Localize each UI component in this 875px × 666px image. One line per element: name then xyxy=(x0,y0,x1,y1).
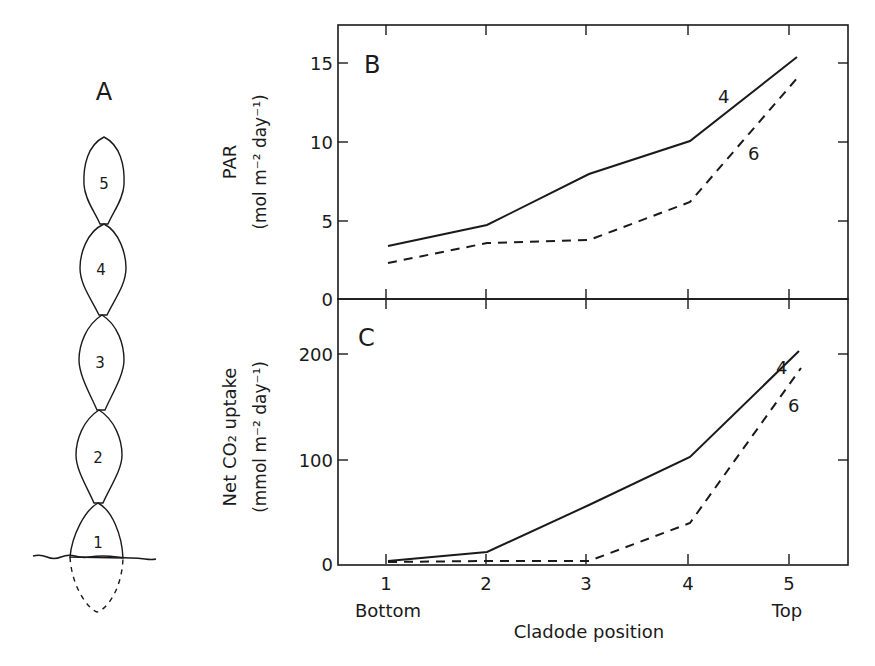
panel-b-ylabel-line2: (mol m⁻² day⁻¹) xyxy=(250,94,270,229)
panel-c-ytick-200: 200 xyxy=(299,344,333,365)
panel-b-series-label-6: 6 xyxy=(748,143,759,164)
cladode-label-4: 4 xyxy=(96,261,106,279)
xtick-2: 2 xyxy=(480,573,491,594)
panel-b-ytick-5: 5 xyxy=(322,211,333,232)
panel-c-series-label-4: 4 xyxy=(776,357,787,378)
panel-c-ytick-100: 100 xyxy=(299,450,333,471)
panel-b-frame xyxy=(338,25,848,299)
panel-c-ylabel-line1: Net CO₂ uptake xyxy=(219,368,240,507)
panel-b-yticks xyxy=(338,63,848,221)
xtick-1: 1 xyxy=(380,573,391,594)
panel-b-series-label-4: 4 xyxy=(718,86,729,107)
panel-b-series-4 xyxy=(388,57,797,246)
panel-c-ytick-0: 0 xyxy=(322,554,333,575)
buried-cladode xyxy=(70,557,123,612)
panel-c-series-6 xyxy=(388,368,801,562)
xaxis-title: Cladode position xyxy=(514,621,665,642)
panel-b-label: B xyxy=(364,51,380,79)
xtick-4: 4 xyxy=(682,573,693,594)
panel-c-series-label-6: 6 xyxy=(788,395,799,416)
cladode-label-3: 3 xyxy=(95,354,105,372)
x-axis: 1 2 3 4 5 Bottom Top Cladode position xyxy=(355,573,802,642)
panel-a-label: A xyxy=(96,78,113,106)
panel-b-ylabel-line1: PAR xyxy=(219,145,240,180)
figure: A 5 4 3 2 1 xyxy=(0,0,875,666)
panel-c-frame xyxy=(338,299,848,565)
xtick-5: 5 xyxy=(783,573,794,594)
cladode-label-1: 1 xyxy=(93,534,103,552)
panel-b-ytick-15: 15 xyxy=(310,53,333,74)
xtick-3: 3 xyxy=(580,573,591,594)
xaxis-bottom-label: Bottom xyxy=(355,600,421,621)
panel-b: 0 5 10 15 B PAR (mol m⁻² day⁻¹) 4 6 xyxy=(219,25,848,310)
cladode-label-2: 2 xyxy=(93,449,103,467)
panel-a: A xyxy=(33,78,156,612)
panel-c-xticks xyxy=(386,299,789,564)
panel-b-ytick-0: 0 xyxy=(322,289,333,310)
cladode-label-5: 5 xyxy=(99,175,109,193)
panel-c-label: C xyxy=(358,324,375,352)
panel-b-ytick-10: 10 xyxy=(310,132,333,153)
panel-c: 0 100 200 C Net CO₂ uptake (mmol m⁻² day… xyxy=(219,299,848,575)
panel-c-ylabel-line2: (mmol m⁻² day⁻¹) xyxy=(250,361,270,513)
xaxis-top-label: Top xyxy=(771,600,802,621)
panel-b-xticks xyxy=(386,25,789,299)
panel-c-yticks xyxy=(338,354,848,460)
